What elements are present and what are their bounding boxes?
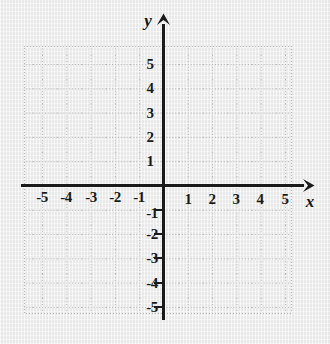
- y-tick-label-4: 4: [146, 81, 153, 96]
- x-tick-label-3: 3: [232, 192, 239, 207]
- y-tick-label--4: -4: [146, 276, 158, 291]
- y-tick-label--2: -2: [146, 227, 158, 242]
- y-tick-label--5: -5: [146, 300, 158, 315]
- grid-lines: [24, 46, 291, 313]
- y-tick-label-1: 1: [146, 154, 153, 169]
- x-tick-label-2: 2: [208, 192, 215, 207]
- x-tick-label--4: -4: [60, 190, 72, 205]
- coordinate-plane-figure: -5 -4 -3 -2 -1 1 2 3 4 5 5 4 3 2 1 -1 -2…: [0, 0, 330, 344]
- y-tick-label-3: 3: [146, 106, 153, 121]
- x-axis-arrowhead: [303, 179, 315, 192]
- y-tick-label--3: -3: [146, 251, 158, 266]
- x-tick-label--5: -5: [36, 190, 48, 205]
- y-tick-label-2: 2: [146, 130, 153, 145]
- x-axis-label: x: [306, 193, 315, 210]
- x-tick-label-4: 4: [256, 192, 263, 207]
- x-tick-label-5: 5: [281, 192, 288, 207]
- y-axis-label: y: [144, 12, 152, 29]
- x-tick-label--2: -2: [109, 190, 121, 205]
- x-tick-label--1: -1: [133, 190, 145, 205]
- x-tick-label--3: -3: [85, 190, 97, 205]
- coordinate-plane-svg: [0, 0, 330, 344]
- y-axis-arrowhead: [157, 14, 170, 26]
- y-tick-label-5: 5: [146, 57, 153, 72]
- x-tick-label-1: 1: [184, 192, 191, 207]
- y-tick-label--1: -1: [146, 206, 158, 221]
